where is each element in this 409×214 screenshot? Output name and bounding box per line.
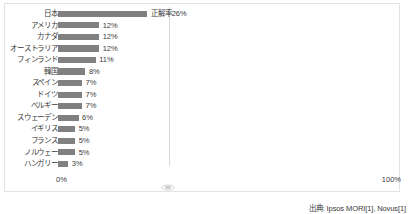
- category-label: スペイン: [5, 79, 58, 87]
- bar-row: イギリス5%: [5, 123, 401, 135]
- bar-track: 3%: [58, 158, 401, 170]
- plot-area: 日本正解率26%アメリカ12%カナダ12%オーストラリア12%フィンランド11%…: [5, 4, 399, 191]
- bar: [58, 149, 75, 155]
- value-label: 12%: [103, 33, 118, 41]
- bar: [58, 138, 75, 144]
- bar: [58, 11, 147, 17]
- category-label: スウェーデン: [5, 114, 58, 122]
- bar: [58, 68, 85, 74]
- category-label: イギリス: [5, 125, 58, 133]
- bar: [58, 161, 68, 167]
- axis-tick-100: 100%: [382, 176, 401, 184]
- category-label: オーストラリア: [5, 45, 58, 53]
- category-label: ハンガリー: [5, 160, 58, 168]
- value-label: 3%: [72, 160, 83, 168]
- bar: [58, 126, 75, 132]
- bar-track: 7%: [58, 77, 401, 89]
- x-axis: 0% 100%: [5, 175, 401, 187]
- category-label: ドイツ: [5, 91, 58, 99]
- value-label: 正解率26%: [151, 10, 187, 18]
- decorative-glyph-icon: [158, 182, 178, 191]
- bar-track: 7%: [58, 100, 401, 112]
- category-label: カナダ: [5, 33, 58, 41]
- bar-track: 7%: [58, 89, 401, 101]
- value-label: 8%: [89, 68, 100, 76]
- bar: [58, 115, 79, 121]
- bar-track: 6%: [58, 112, 401, 124]
- value-label: 12%: [103, 22, 118, 30]
- bar: [58, 57, 96, 63]
- bar-row: 韓国8%: [5, 66, 401, 78]
- value-label: 5%: [79, 149, 90, 157]
- bar-row: ノルウェー5%: [5, 147, 401, 159]
- bar-track: 11%: [58, 54, 401, 66]
- value-label: 5%: [79, 125, 90, 133]
- axis-tick-0: 0%: [56, 176, 67, 184]
- value-label: 7%: [86, 102, 97, 110]
- bar: [58, 45, 99, 51]
- category-label: 韓国: [5, 68, 58, 76]
- category-label: フランス: [5, 137, 58, 145]
- bar: [58, 34, 99, 40]
- category-label: 日本: [5, 10, 58, 18]
- bar-track: 12%: [58, 43, 401, 55]
- bar-rows: 日本正解率26%アメリカ12%カナダ12%オーストラリア12%フィンランド11%…: [5, 8, 401, 170]
- bar-row: アメリカ12%: [5, 20, 401, 32]
- bar: [58, 103, 82, 109]
- bar-row: 日本正解率26%: [5, 8, 401, 20]
- bar-row: スペイン7%: [5, 77, 401, 89]
- value-label: 5%: [79, 137, 90, 145]
- bar-row: ハンガリー3%: [5, 158, 401, 170]
- bar-track: 正解率26%: [58, 8, 401, 20]
- value-label: 7%: [86, 91, 97, 99]
- source-note: 出典: Ipsos MORI[1], Novus[1]: [309, 202, 406, 213]
- bar: [58, 92, 82, 98]
- category-label: ノルウェー: [5, 149, 58, 157]
- bar-track: 5%: [58, 123, 401, 135]
- chart-container: 日本正解率26%アメリカ12%カナダ12%オーストラリア12%フィンランド11%…: [4, 3, 400, 192]
- category-label: フィンランド: [5, 56, 58, 64]
- value-label: 12%: [103, 45, 118, 53]
- bar-row: スウェーデン6%: [5, 112, 401, 124]
- bar-row: フィンランド11%: [5, 54, 401, 66]
- bar-track: 8%: [58, 66, 401, 78]
- category-label: ベルギー: [5, 102, 58, 110]
- category-label: アメリカ: [5, 22, 58, 30]
- bar-track: 12%: [58, 31, 401, 43]
- bar: [58, 80, 82, 86]
- value-label: 7%: [86, 79, 97, 87]
- bar-row: フランス5%: [5, 135, 401, 147]
- bar-row: ベルギー7%: [5, 100, 401, 112]
- bar-row: ドイツ7%: [5, 89, 401, 101]
- value-label: 11%: [99, 56, 113, 64]
- bar: [58, 22, 99, 28]
- bar-row: カナダ12%: [5, 31, 401, 43]
- value-label: 6%: [82, 114, 93, 122]
- bar-row: オーストラリア12%: [5, 43, 401, 55]
- bar-track: 5%: [58, 135, 401, 147]
- bar-track: 5%: [58, 147, 401, 159]
- bar-track: 12%: [58, 20, 401, 32]
